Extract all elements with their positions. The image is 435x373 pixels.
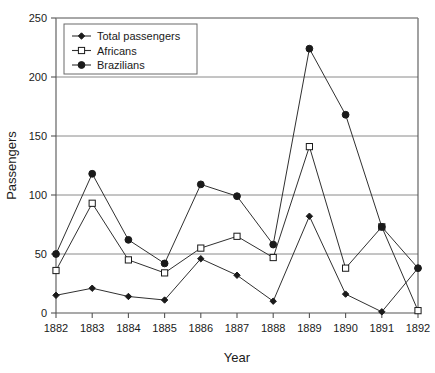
xtick-label-1889: 1889: [297, 322, 321, 334]
datapoint-0-8: [342, 291, 348, 297]
datapoint-2-4: [197, 181, 204, 188]
ytick-label-250: 250: [29, 12, 47, 24]
ytick-label-50: 50: [35, 248, 47, 260]
xtick-label-1884: 1884: [116, 322, 140, 334]
datapoint-1-1: [89, 200, 95, 206]
chart-legend: Total passengersAfricansBrazilians: [64, 24, 197, 74]
datapoint-0-1: [89, 285, 95, 291]
datapoint-1-5: [234, 233, 240, 239]
legend-label-2: Brazilians: [97, 59, 145, 71]
legend-marker-circle-filled: [78, 62, 85, 69]
xtick-label-1891: 1891: [370, 322, 394, 334]
datapoint-2-10: [415, 265, 422, 272]
ytick-label-200: 200: [29, 71, 47, 83]
datapoint-1-7: [306, 144, 312, 150]
datapoint-1-0: [53, 267, 59, 273]
datapoint-2-0: [53, 251, 60, 258]
xtick-label-1888: 1888: [261, 322, 285, 334]
chart-canvas: 0501001502002501882188318841885188618871…: [0, 0, 435, 373]
datapoint-1-6: [270, 254, 276, 260]
ytick-label-0: 0: [41, 307, 47, 319]
series-africans: [53, 144, 421, 314]
datapoint-0-2: [125, 293, 131, 299]
y-axis-title: Passengers: [4, 131, 19, 200]
datapoint-1-4: [198, 245, 204, 251]
datapoint-1-2: [125, 257, 131, 263]
xtick-label-1882: 1882: [44, 322, 68, 334]
passengers-line-chart: 0501001502002501882188318841885188618871…: [0, 0, 435, 373]
xtick-label-1890: 1890: [333, 322, 357, 334]
datapoint-1-10: [415, 308, 421, 314]
xtick-label-1883: 1883: [80, 322, 104, 334]
ytick-label-150: 150: [29, 130, 47, 142]
legend-marker-square-open: [78, 47, 84, 53]
datapoint-2-6: [270, 241, 277, 248]
datapoint-1-8: [343, 265, 349, 271]
xtick-label-1886: 1886: [189, 322, 213, 334]
legend-label-1: Africans: [97, 45, 137, 57]
datapoint-0-5: [234, 272, 240, 278]
xtick-label-1885: 1885: [152, 322, 176, 334]
datapoint-2-5: [234, 193, 241, 200]
series-line-0: [56, 216, 418, 312]
datapoint-2-3: [161, 260, 168, 267]
datapoint-2-8: [342, 111, 349, 118]
datapoint-2-1: [89, 170, 96, 177]
legend-label-0: Total passengers: [97, 30, 181, 42]
datapoint-0-6: [270, 298, 276, 304]
datapoint-0-0: [53, 292, 59, 298]
datapoint-2-9: [378, 223, 385, 230]
datapoint-2-2: [125, 236, 132, 243]
datapoint-1-3: [162, 270, 168, 276]
datapoint-0-7: [306, 213, 312, 219]
xtick-label-1887: 1887: [225, 322, 249, 334]
xtick-label-1892: 1892: [406, 322, 430, 334]
ytick-label-100: 100: [29, 189, 47, 201]
datapoint-2-7: [306, 45, 313, 52]
x-axis-title: Year: [224, 350, 251, 365]
